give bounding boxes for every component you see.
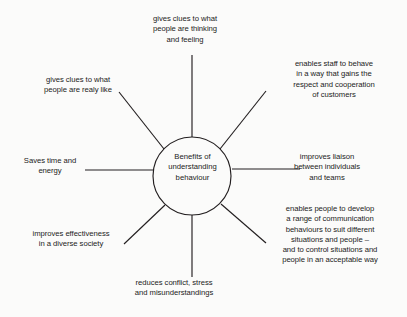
- branch-label-top-left: gives clues to what people are realy lik…: [16, 75, 140, 96]
- spoke-top-left: [119, 92, 164, 149]
- branch-label-bottom-left: improves effectiveness in a diverse soci…: [6, 229, 136, 250]
- branch-label-left: Saves time and energy: [4, 156, 96, 177]
- mind-map-diagram: Benefits of understanding behaviour give…: [0, 0, 407, 317]
- branch-label-bottom: reduces conflict, stress and misundersta…: [108, 278, 240, 299]
- spoke-top-right: [220, 91, 266, 149]
- center-node-label: Benefits of understanding behaviour: [153, 152, 232, 183]
- branch-label-right: improves liaison between individuals and…: [266, 152, 388, 183]
- branch-label-bottom-right: enables people to develop a range of com…: [256, 204, 404, 266]
- branch-label-top: gives clues to what people are thinking …: [126, 14, 244, 45]
- branch-label-top-right: enables staff to behave in a way that ga…: [268, 59, 400, 100]
